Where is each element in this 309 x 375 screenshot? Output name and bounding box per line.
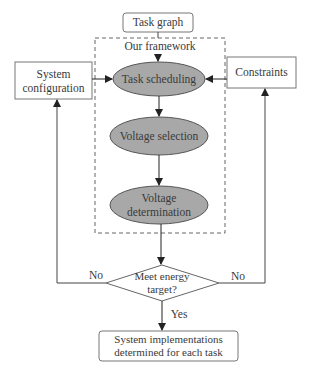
decision-line-2: target? [120, 283, 204, 296]
result-line-1: System implementations [99, 333, 238, 346]
framework-label: Our framework [110, 39, 210, 53]
yes-label: Yes [168, 307, 190, 321]
no-left-label: No [86, 268, 106, 282]
result-label: System implementations determined for ea… [99, 333, 238, 359]
arrow-no-left [57, 100, 106, 283]
task-graph-label: Task graph [123, 15, 193, 29]
decision-line-1: Meet energy [120, 270, 204, 283]
task-scheduling-label: Task scheduling [113, 72, 205, 86]
system-configuration-label: System configuration [15, 67, 92, 95]
voltage-determination-line-1: Voltage [110, 191, 208, 205]
system-configuration-line-2: configuration [15, 81, 92, 95]
decision-label: Meet energy target? [120, 270, 204, 296]
voltage-determination-line-2: determination [110, 205, 208, 219]
arrow-no-right [219, 89, 265, 283]
result-line-2: determined for each task [99, 346, 238, 359]
constraints-label: Constraints [227, 65, 296, 79]
no-right-label: No [228, 269, 248, 283]
system-configuration-line-1: System [15, 67, 92, 81]
voltage-determination-label: Voltage determination [110, 191, 208, 219]
flowchart-canvas [0, 0, 309, 375]
voltage-selection-label: Voltage selection [110, 129, 208, 143]
